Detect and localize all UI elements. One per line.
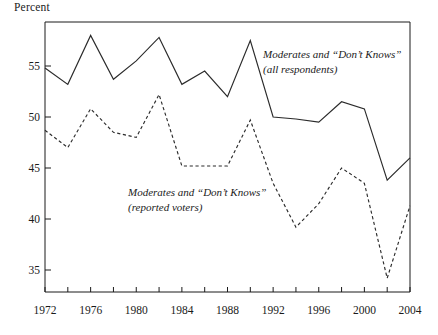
x-axis-label-1984: 1984	[170, 304, 193, 316]
x-axis-label-1996: 1996	[307, 304, 330, 316]
y-axis-label-35: 35	[29, 264, 41, 276]
x-axis-labels: 197219761980198419881992199620002004	[34, 304, 422, 316]
chart-container: Percent 55 50 45 40 35 19721976198019841…	[0, 0, 438, 335]
x-axis-label-1980: 1980	[125, 304, 148, 316]
x-axis-label-2000: 2000	[353, 304, 376, 316]
annotation-all-respondents-line2: (all respondents)	[263, 63, 338, 76]
x-axis-label-1976: 1976	[79, 304, 102, 316]
annotation-all-respondents: Moderates and “Don’t Knows” (all respond…	[262, 48, 401, 76]
y-axis-label-55: 55	[29, 60, 41, 72]
y-axis-ticks	[45, 66, 51, 270]
y-axis-label-45: 45	[29, 162, 41, 174]
x-axis-label-1988: 1988	[216, 304, 239, 316]
x-axis-label-1992: 1992	[262, 304, 285, 316]
annotation-reported-voters-line1: Moderates and “Don’t Knows”	[127, 186, 266, 198]
x-axis-label-1972: 1972	[34, 304, 57, 316]
annotation-reported-voters: Moderates and “Don’t Knows” (reported vo…	[127, 186, 266, 214]
y-axis-labels: 55 50 45 40 35	[29, 60, 41, 276]
chart-plot-area: 55 50 45 40 35 1972197619801984198819921…	[0, 0, 438, 335]
x-axis-ticks	[45, 287, 410, 292]
y-axis-label-40: 40	[29, 213, 41, 225]
annotation-reported-voters-line2: (reported voters)	[128, 201, 203, 214]
x-axis-label-2004: 2004	[399, 304, 422, 316]
annotation-all-respondents-line1: Moderates and “Don’t Knows”	[262, 48, 401, 60]
y-axis-label-50: 50	[29, 111, 41, 123]
